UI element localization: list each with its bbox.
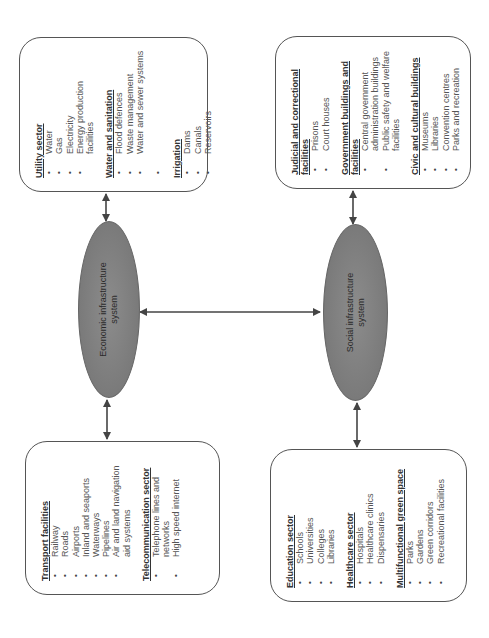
healthcare-section: Healthcare sector Hospitals Healthcare c… — [345, 460, 386, 588]
list-item: Gardens — [415, 460, 425, 588]
list-item: High speed internet — [171, 452, 181, 581]
utility-box: Utility sector Water Gas Electricity Ene… — [19, 37, 208, 192]
list-item: Dispensaries — [376, 460, 386, 588]
list-item: Electricity — [65, 48, 75, 178]
list-item: Libraries — [326, 460, 336, 588]
list-item: Waterways — [91, 452, 101, 581]
list-item: Airports — [71, 452, 81, 581]
judicial-section: Judicial and correctional facilities Pri… — [290, 47, 331, 175]
education-section: Education sector Schools Universities Co… — [285, 460, 336, 588]
section-heading: Healthcare sector — [345, 460, 355, 588]
civic-section: Civic and cultural buildings Museums Lib… — [410, 47, 461, 175]
telecommunication-section: Telecommunication sector Telephone lines… — [141, 452, 182, 581]
list-item: Public safety and welfare facilities — [381, 47, 401, 175]
economic-node-label-line2: system — [109, 262, 120, 357]
list-item: Dams — [182, 48, 192, 178]
list-item: Hospitals — [355, 460, 365, 588]
list-item: Prisons — [310, 47, 320, 175]
list-item: Court houses — [321, 47, 331, 175]
list-item: Parks — [405, 460, 415, 588]
list-item: Water and sewer systems — [135, 48, 145, 178]
list-item: Water — [44, 48, 54, 178]
list-item: Parks and recreation — [451, 47, 461, 175]
judicial-box: Judicial and correctional facilities Pri… — [275, 36, 471, 189]
section-heading: Irrigation — [172, 48, 182, 178]
section-heading: Civic and cultural buildings — [410, 47, 420, 175]
list-item: Schools — [295, 460, 305, 588]
list-item: Pipelines — [101, 452, 111, 581]
list-item: Colleges — [316, 460, 326, 588]
list-item: Air and land navigation aid systems — [111, 452, 131, 581]
utility-sector-section: Utility sector Water Gas Electricity Ene… — [34, 48, 95, 178]
list-item: Waste management — [125, 48, 135, 178]
list-item: Roads — [60, 452, 70, 581]
green-space-section: Multifunctional green space Parks Garden… — [395, 460, 446, 588]
social-node-label-line1: Social infrastructure — [345, 273, 356, 353]
list-item: Healthcare clinics — [365, 460, 375, 588]
transport-section: Transport facilities Railway Roads Airpo… — [40, 452, 132, 581]
section-heading: Telecommunication sector — [141, 452, 151, 581]
education-box: Education sector Schools Universities Co… — [270, 449, 467, 602]
social-infrastructure-node: Social infrastructure system — [323, 224, 388, 401]
section-heading: Utility sector — [34, 48, 44, 178]
list-item: Reservoirs — [203, 48, 213, 178]
list-item: Flood defences — [114, 48, 124, 178]
transport-box: Transport facilities Railway Roads Airpo… — [25, 441, 220, 595]
list-item: Gas — [54, 48, 64, 178]
section-heading: Water and sanitation — [104, 48, 114, 178]
list-item: Inland and seaports — [81, 452, 91, 581]
irrigation-section: Irrigation Dams Canals Reservoirs — [172, 48, 213, 178]
economic-infrastructure-node: Economic infrastructure system — [78, 221, 140, 398]
list-item: Telephone lines and networks — [151, 452, 171, 581]
list-item: Energy production facilities — [75, 48, 95, 178]
list-item: Recreational facilities — [436, 460, 446, 588]
list-item: Railway — [50, 452, 60, 581]
section-heading: Education sector — [285, 460, 295, 588]
list-item: Convention centres — [441, 47, 451, 175]
list-item: Libraries — [430, 47, 440, 175]
water-sanitation-section: Water and sanitation Flood defences Wast… — [104, 48, 163, 178]
section-heading: Transport facilities — [40, 452, 50, 581]
social-node-label-line2: system — [356, 273, 367, 353]
list-item-empty — [153, 48, 163, 178]
section-heading: Judicial and correctional facilities — [290, 47, 310, 175]
infrastructure-diagram: Economic infrastructure system Social in… — [0, 0, 489, 638]
list-item: Green corridors — [425, 460, 435, 588]
government-section: Government buildings and facilities Cent… — [340, 47, 401, 175]
section-heading: Multifunctional green space — [395, 460, 405, 588]
section-heading: Government buildings and facilities — [340, 47, 360, 175]
economic-node-label-line1: Economic infrastructure — [98, 262, 109, 357]
list-item: Museums — [420, 47, 430, 175]
list-item: Central government administration buildi… — [360, 47, 380, 175]
list-item: Canals — [193, 48, 203, 178]
list-item: Universities — [305, 460, 315, 588]
